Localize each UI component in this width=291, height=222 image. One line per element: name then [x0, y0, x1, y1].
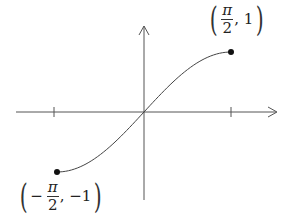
- label-top-right: ( π 2 , 1 ): [207, 2, 266, 36]
- minus-sign: −: [30, 187, 43, 205]
- fraction-numerator: π: [221, 3, 233, 20]
- fraction-denominator: 2: [48, 197, 58, 213]
- close-paren: ): [94, 179, 102, 213]
- fraction: π 2: [221, 3, 233, 36]
- label-bottom-left: ( − π 2 , −1 ): [17, 179, 105, 213]
- open-paren: (: [210, 2, 218, 36]
- coordinate-rest: , −1: [60, 187, 92, 205]
- endpoint-top-right: [228, 49, 234, 55]
- y-axis: [139, 26, 149, 200]
- open-paren: (: [20, 179, 28, 213]
- coordinate-rest: , 1: [234, 10, 253, 28]
- fraction-numerator: π: [47, 180, 59, 197]
- fraction-denominator: 2: [222, 20, 232, 36]
- close-paren: ): [256, 2, 264, 36]
- x-axis: [16, 107, 277, 117]
- endpoint-bottom-left: [54, 169, 60, 175]
- fraction: π 2: [47, 180, 59, 213]
